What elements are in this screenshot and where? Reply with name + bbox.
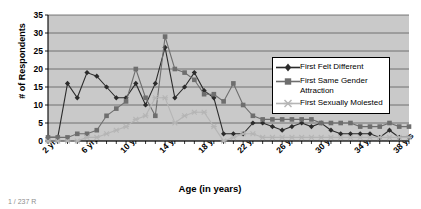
data-point-square xyxy=(251,114,256,119)
data-point-square xyxy=(104,114,109,119)
legend-key-diamond-icon xyxy=(276,62,300,73)
data-point-square xyxy=(338,121,343,126)
data-point-square xyxy=(202,92,207,97)
data-point-square xyxy=(134,67,139,72)
data-point-square xyxy=(143,96,148,101)
data-point-square xyxy=(290,117,295,122)
footnote-text: 1 / 237 R xyxy=(8,198,36,205)
data-point-square xyxy=(231,81,236,86)
data-point-square xyxy=(114,106,119,111)
data-point-square xyxy=(280,117,285,122)
legend-item: First Sexually Molested xyxy=(276,98,386,109)
data-point-square xyxy=(270,117,275,122)
legend-label-first-sexually-molested: First Sexually Molested xyxy=(300,98,383,108)
legend-item: First Same Gender Attraction xyxy=(276,76,386,95)
data-point-square xyxy=(329,121,334,126)
data-point-square xyxy=(348,121,353,126)
legend-label-first-felt-different: First Felt Different xyxy=(300,62,363,72)
chart-figure: # of Respondents Age (in years) 05101520… xyxy=(0,0,421,209)
data-point-square xyxy=(163,34,168,39)
data-point-square xyxy=(212,92,217,97)
legend-key-star-icon xyxy=(276,98,300,109)
legend-key-square-icon xyxy=(276,76,300,87)
data-point-square xyxy=(358,124,363,129)
data-point-square xyxy=(397,124,402,129)
data-point-square xyxy=(387,121,392,126)
data-point-square xyxy=(75,132,80,137)
legend-item: First Felt Different xyxy=(276,62,386,73)
data-point-square xyxy=(377,124,382,129)
data-point-square xyxy=(94,128,99,133)
data-point-square xyxy=(153,114,158,119)
data-point-square xyxy=(299,117,304,122)
chart-legend: First Felt Different First Same Gender A… xyxy=(272,57,390,114)
data-point-square xyxy=(309,117,314,122)
data-point-square xyxy=(192,78,197,83)
data-point-square xyxy=(173,67,178,72)
data-point-square xyxy=(319,121,324,126)
data-point-square xyxy=(182,70,187,75)
data-point-square xyxy=(407,124,412,129)
data-point-square xyxy=(368,124,373,129)
data-point-square xyxy=(241,103,246,108)
legend-label-first-same-gender-attraction: First Same Gender Attraction xyxy=(300,76,386,95)
data-point-square xyxy=(260,117,265,122)
data-point-square xyxy=(124,99,129,104)
data-point-square xyxy=(221,99,226,104)
